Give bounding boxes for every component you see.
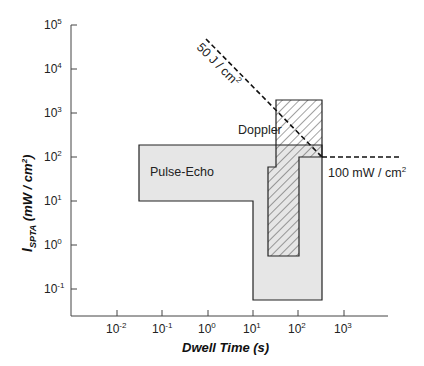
x-tick-labels: 10-2 10-1 100 101 102 103 — [106, 321, 352, 336]
svg-text:102: 102 — [44, 149, 62, 164]
svg-text:103: 103 — [334, 321, 352, 336]
y-ticks — [71, 25, 77, 289]
svg-text:10-1: 10-1 — [44, 281, 65, 296]
svg-text:101: 101 — [243, 321, 261, 336]
y-axis-title: ISPTA (mW / cm2) — [19, 155, 38, 252]
svg-text:102: 102 — [288, 321, 306, 336]
doppler-label: Doppler — [238, 123, 282, 137]
svg-text:103: 103 — [44, 105, 62, 120]
svg-text:10-1: 10-1 — [152, 321, 173, 336]
svg-text:104: 104 — [44, 61, 62, 76]
pulse-echo-label: Pulse-Echo — [150, 165, 214, 179]
energy-limit-line — [206, 39, 322, 157]
svg-text:100: 100 — [44, 237, 62, 252]
svg-text:101: 101 — [44, 193, 62, 208]
energy-limit-label: 50 J / cm2 — [194, 40, 244, 90]
svg-text:105: 105 — [44, 17, 62, 32]
x-axis-title: Dwell Time (s) — [182, 340, 269, 355]
svg-text:10-2: 10-2 — [106, 321, 127, 336]
chart: 105 104 103 102 101 100 10-1 10-2 10-1 1… — [0, 0, 424, 366]
power-limit-label: 100 mW / cm2 — [328, 165, 407, 180]
x-ticks — [117, 310, 344, 316]
y-tick-labels: 105 104 103 102 101 100 10-1 — [44, 17, 65, 296]
svg-text:100: 100 — [198, 321, 216, 336]
